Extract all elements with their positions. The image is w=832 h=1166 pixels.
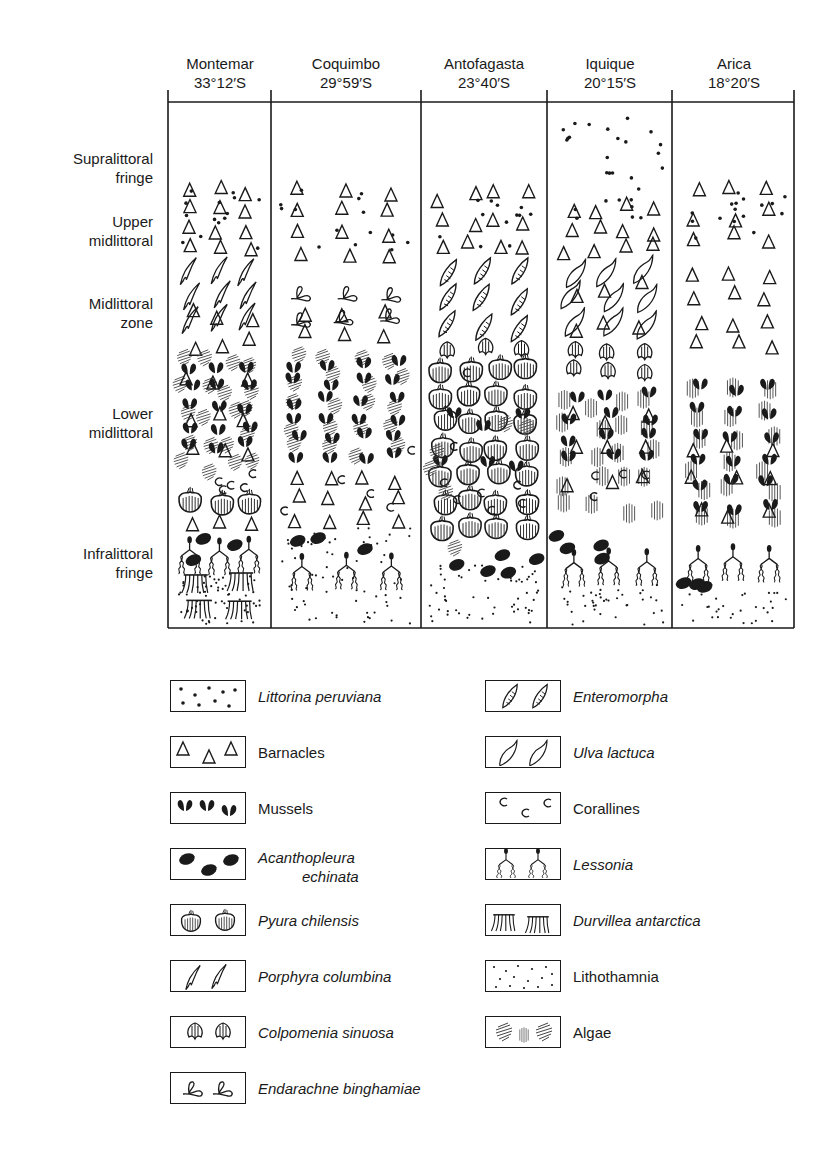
- legend-label-line: Corallines: [573, 799, 640, 818]
- legend-item-lessonia: Lessonia: [485, 848, 633, 880]
- porphyra-icon: [170, 960, 246, 992]
- legend-item-littorina-dots: Littorina peruviana: [170, 680, 381, 712]
- species-symbols: [173, 117, 787, 626]
- endarachne-icon: [170, 1072, 246, 1104]
- legend-label: Lithothamnia: [573, 967, 659, 986]
- legend-label: Acanthopleuraechinata: [258, 848, 359, 886]
- legend-item-lithothamnia-stipple: Lithothamnia: [485, 960, 659, 992]
- legend-item-enteromorpha: Enteromorpha: [485, 680, 668, 712]
- algae-hatch-icon: [485, 1016, 561, 1048]
- legend-item-coralline: Corallines: [485, 792, 640, 824]
- legend-item-mussel: Mussels: [170, 792, 313, 824]
- legend-label-line: Lessonia: [573, 855, 633, 874]
- legend-label: Lessonia: [573, 855, 633, 874]
- legend-label-line: Ulva lactuca: [573, 743, 655, 762]
- barnacle-triangle-icon: [170, 736, 246, 768]
- legend-label: Porphyra columbina: [258, 967, 391, 986]
- enteromorpha-icon: [485, 680, 561, 712]
- legend-label: Durvillea antarctica: [573, 911, 701, 930]
- legend-item-porphyra: Porphyra columbina: [170, 960, 391, 992]
- legend-label-line: Acanthopleura: [258, 848, 359, 867]
- lessonia-icon: [485, 848, 561, 880]
- legend-label: Endarachne binghamiae: [258, 1079, 421, 1098]
- legend-label-line: Enteromorpha: [573, 687, 668, 706]
- legend-item-ulva: Ulva lactuca: [485, 736, 655, 768]
- durvillea-icon: [485, 904, 561, 936]
- legend-label: Littorina peruviana: [258, 687, 381, 706]
- legend-label: Pyura chilensis: [258, 911, 359, 930]
- legend-item-colpomenia: Colpomenia sinuosa: [170, 1016, 394, 1048]
- zonation-diagram: [0, 0, 832, 660]
- legend-label: Ulva lactuca: [573, 743, 655, 762]
- colpomenia-icon: [170, 1016, 246, 1048]
- ulva-icon: [485, 736, 561, 768]
- legend-label-line: echinata: [258, 867, 359, 886]
- legend-item-endarachne: Endarachne binghamiae: [170, 1072, 421, 1104]
- legend-item-barnacle-triangle: Barnacles: [170, 736, 325, 768]
- legend-label: Enteromorpha: [573, 687, 668, 706]
- legend-label-line: Barnacles: [258, 743, 325, 762]
- legend-label-line: Porphyra columbina: [258, 967, 391, 986]
- legend-label: Mussels: [258, 799, 313, 818]
- legend-label-line: Colpomenia sinuosa: [258, 1023, 394, 1042]
- legend-label: Barnacles: [258, 743, 325, 762]
- legend-label-line: Pyura chilensis: [258, 911, 359, 930]
- legend-label: Algae: [573, 1023, 611, 1042]
- legend-label-line: Endarachne binghamiae: [258, 1079, 421, 1098]
- legend-label-line: Littorina peruviana: [258, 687, 381, 706]
- legend-item-algae-hatch: Algae: [485, 1016, 611, 1048]
- chiton-oval-icon: [170, 848, 246, 880]
- mussel-icon: [170, 792, 246, 824]
- lithothamnia-stipple-icon: [485, 960, 561, 992]
- legend-item-pyura: Pyura chilensis: [170, 904, 359, 936]
- legend-label-line: Algae: [573, 1023, 611, 1042]
- legend-label-line: Durvillea antarctica: [573, 911, 701, 930]
- legend-label-line: Mussels: [258, 799, 313, 818]
- legend-item-durvillea: Durvillea antarctica: [485, 904, 701, 936]
- legend-label: Corallines: [573, 799, 640, 818]
- legend-item-chiton-oval: Acanthopleuraechinata: [170, 848, 359, 880]
- coralline-icon: [485, 792, 561, 824]
- littorina-dots-icon: [170, 680, 246, 712]
- legend-label: Colpomenia sinuosa: [258, 1023, 394, 1042]
- legend-label-line: Lithothamnia: [573, 967, 659, 986]
- pyura-icon: [170, 904, 246, 936]
